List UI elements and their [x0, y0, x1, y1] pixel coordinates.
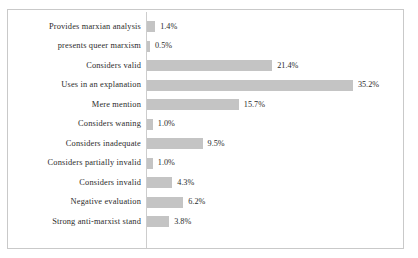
bar-value-label: 15.7%	[244, 101, 265, 109]
bar-category-label: Considers waning	[8, 120, 141, 128]
bar-track: 15.7%	[147, 95, 403, 115]
bar-fill	[147, 119, 153, 130]
bar-fill	[147, 158, 153, 169]
bar-value-label: 21.4%	[277, 62, 298, 70]
bar-fill	[147, 197, 183, 208]
bar-row: Mere mention15.7%	[8, 95, 403, 115]
bar-value-label: 4.3%	[177, 179, 194, 187]
bar-fill	[147, 41, 150, 52]
bar-fill	[147, 80, 353, 91]
bar-row: Considers waning1.0%	[8, 115, 403, 135]
bar-category-label: Considers valid	[8, 62, 141, 70]
bar-category-label: Considers partially invalid	[8, 159, 141, 167]
bar-track: 4.3%	[147, 173, 403, 193]
plot-area: Provides marxian analysis1.4%presents qu…	[8, 10, 403, 248]
bar-value-label: 6.2%	[188, 198, 205, 206]
bar-row: Strong anti-marxist stand3.8%	[8, 212, 403, 232]
bar-category-label: Uses in an explanation	[8, 81, 141, 89]
bar-category-label: Mere mention	[8, 101, 141, 109]
bar-category-label: Strong anti-marxist stand	[8, 218, 141, 226]
bar-value-label: 35.2%	[358, 81, 379, 89]
bar-category-label: Considers invalid	[8, 179, 141, 187]
bar-value-label: 1.4%	[160, 23, 177, 31]
bar-row: Considers inadequate9.5%	[8, 134, 403, 154]
bar-row: Negative evaluation6.2%	[8, 193, 403, 213]
bar-track: 1.0%	[147, 115, 403, 135]
bar-fill	[147, 21, 155, 32]
bar-row: Considers valid21.4%	[8, 56, 403, 76]
bar-fill	[147, 99, 239, 110]
bar-row: presents queer marxism0.5%	[8, 37, 403, 57]
bar-value-label: 0.5%	[155, 42, 172, 50]
bar-row: Considers invalid4.3%	[8, 173, 403, 193]
bar-fill	[147, 216, 169, 227]
bar-track: 35.2%	[147, 76, 403, 96]
bar-value-label: 9.5%	[208, 140, 225, 148]
bar-category-label: Considers inadequate	[8, 140, 141, 148]
bar-category-label: presents queer marxism	[8, 42, 141, 50]
bar-track: 1.0%	[147, 154, 403, 174]
bar-track: 21.4%	[147, 56, 403, 76]
bar-track: 0.5%	[147, 37, 403, 57]
bar-track: 6.2%	[147, 193, 403, 213]
bar-category-label: Negative evaluation	[8, 198, 141, 206]
bar-fill	[147, 60, 272, 71]
bar-fill	[147, 177, 172, 188]
bar-value-label: 3.8%	[174, 218, 191, 226]
bar-value-label: 1.0%	[158, 159, 175, 167]
chart-frame: Provides marxian analysis1.4%presents qu…	[7, 9, 404, 249]
bar-row: Considers partially invalid1.0%	[8, 154, 403, 174]
bar-value-label: 1.0%	[158, 120, 175, 128]
bar-fill	[147, 138, 203, 149]
bar-track: 1.4%	[147, 17, 403, 37]
bar-row: Uses in an explanation35.2%	[8, 76, 403, 96]
bar-track: 9.5%	[147, 134, 403, 154]
bar-row: Provides marxian analysis1.4%	[8, 17, 403, 37]
bar-category-label: Provides marxian analysis	[8, 23, 141, 31]
bar-track: 3.8%	[147, 212, 403, 232]
